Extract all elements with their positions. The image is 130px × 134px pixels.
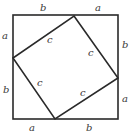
pythagorean-diagram: b a a b b a a b c c c c bbox=[0, 0, 130, 134]
label-inner-top-left: c bbox=[47, 34, 53, 45]
label-right-top: b bbox=[122, 39, 128, 50]
label-right-bottom: a bbox=[122, 93, 128, 104]
label-left-bottom: b bbox=[3, 84, 9, 95]
label-top-right: a bbox=[95, 2, 101, 13]
label-bottom-left: a bbox=[29, 122, 35, 133]
label-bottom-right: b bbox=[86, 122, 92, 133]
label-top-left: b bbox=[40, 2, 46, 13]
label-inner-bottom-right: c bbox=[80, 87, 86, 98]
label-inner-top-right: c bbox=[88, 47, 94, 58]
inner-square bbox=[13, 16, 118, 119]
label-left-top: a bbox=[2, 30, 8, 41]
outer-square bbox=[13, 15, 118, 119]
label-inner-bottom-left: c bbox=[37, 77, 43, 88]
